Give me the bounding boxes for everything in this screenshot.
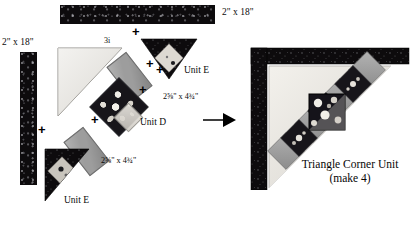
- plus-unit-d-right: +: [139, 83, 147, 96]
- diagram-canvas: 2" x 18" + 2" x 18" + 3i + +: [0, 0, 416, 235]
- label-rect-lower-dimension: 2⅝" x 4¾": [101, 157, 136, 166]
- label-strip-left-dimension: 2" x 18": [2, 38, 34, 48]
- equals-arrow: [203, 110, 237, 130]
- plus-unit-e-top: +: [156, 63, 164, 76]
- label-rect-upper-dimension: 2⅝" x 4¾": [163, 93, 198, 102]
- plus-left-strip: +: [38, 123, 46, 136]
- result-caption-line1: Triangle Corner Unit: [288, 158, 412, 172]
- label-unit-d: Unit D: [140, 118, 166, 128]
- label-strip-top-dimension: 2" x 18": [222, 8, 254, 18]
- fabric-strip-left: [20, 52, 37, 185]
- plus-top-strip: +: [132, 25, 140, 38]
- label-triangle-3i: 3i: [104, 37, 110, 45]
- result-caption: Triangle Corner Unit (make 4): [288, 158, 412, 185]
- result-caption-line2: (make 4): [288, 172, 412, 186]
- label-unit-e-bottom: Unit E: [64, 196, 89, 206]
- fabric-strip-top: [60, 5, 215, 24]
- label-unit-e-top: Unit E: [184, 66, 209, 76]
